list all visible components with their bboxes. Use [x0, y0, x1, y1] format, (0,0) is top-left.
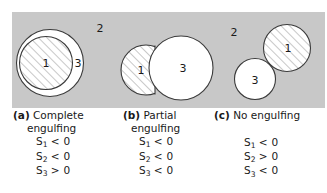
caption-b-label: (b): [123, 109, 140, 121]
condition-item: S2 > 0: [244, 150, 327, 164]
caption-b-title: (b) Partial: [123, 109, 212, 122]
panel-c-label-2: 2: [231, 26, 238, 39]
caption-c-title: (c) No engulfing: [214, 109, 327, 122]
condition-item: S1 < 0: [36, 135, 118, 149]
panel-a-label-2: 2: [97, 22, 104, 35]
caption-c-title-line1: No engulfing: [233, 109, 300, 121]
caption-row: (a) Complete engulfing S1 < 0 S2 < 0 S3 …: [0, 109, 327, 193]
caption-b-conditions: S1 < 0 S2 < 0 S3 < 0: [123, 134, 212, 178]
condition-item: S3 < 0: [244, 164, 327, 178]
condition-item: S1 < 0: [139, 135, 212, 149]
condition-item: S3 < 0: [139, 164, 212, 178]
caption-a-label: (a): [13, 109, 30, 121]
caption-c-label: (c): [214, 109, 230, 121]
caption-a-title-line1: Complete: [33, 109, 84, 121]
condition-item: S2 < 0: [36, 150, 118, 164]
panel-b-label-3: 3: [180, 62, 187, 75]
condition-item: S3 > 0: [36, 164, 118, 178]
caption-a-title: (a) Complete: [13, 109, 118, 122]
panel-a-label-3: 3: [75, 57, 82, 70]
caption-panel-b: (b) Partial engulfing S1 < 0 S2 < 0 S3 <: [118, 109, 212, 178]
caption-a-conditions: S1 < 0 S2 < 0 S3 > 0: [13, 134, 118, 178]
panel-b-label-1: 1: [138, 64, 145, 77]
caption-c-conditions: S1 < 0 S2 > 0 S3 < 0: [214, 122, 327, 179]
caption-panel-c: (c) No engulfing S1 < 0 S2 > 0 S3 < 0: [212, 109, 327, 179]
caption-b-title-line1: Partial: [143, 109, 176, 121]
panel-c-label-3: 3: [252, 74, 259, 87]
condition-item: S2 < 0: [139, 150, 212, 164]
panel-c-label-1: 1: [285, 42, 292, 55]
caption-panel-a: (a) Complete engulfing S1 < 0 S2 < 0 S3 …: [0, 109, 118, 178]
panel-a-label-1: 1: [43, 57, 50, 70]
condition-item: S1 < 0: [244, 136, 327, 150]
caption-a-title-line2: engulfing: [13, 122, 118, 135]
engulfing-figure: 1 3 2 1 3 1 3 2 (a): [0, 0, 327, 193]
caption-b-title-line2: engulfing: [123, 122, 212, 135]
